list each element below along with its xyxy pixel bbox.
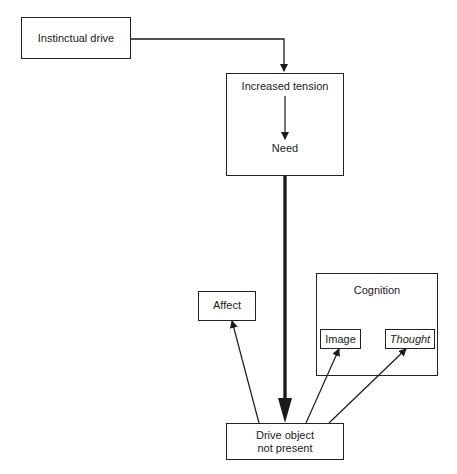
node-instinctual-drive: Instinctual drive bbox=[21, 17, 131, 59]
need-label: Need bbox=[227, 142, 343, 154]
instinctual-drive-label: Instinctual drive bbox=[22, 32, 130, 44]
node-cognition: Cognition bbox=[316, 273, 438, 376]
increased-tension-label: Increased tension bbox=[227, 80, 343, 92]
node-image: Image bbox=[320, 329, 361, 349]
drive-object-line2: not present bbox=[227, 442, 343, 454]
node-thought: Thought bbox=[385, 329, 435, 349]
node-drive-object-not-present: Drive object not present bbox=[226, 423, 344, 460]
node-affect: Affect bbox=[198, 291, 256, 321]
node-tension-need: Increased tension Need bbox=[226, 73, 344, 176]
edge-drive-object-to-affect bbox=[232, 321, 259, 423]
thick-arrowhead-icon bbox=[278, 398, 292, 423]
image-label: Image bbox=[321, 333, 360, 345]
drive-object-line1: Drive object bbox=[227, 429, 343, 441]
connector-layer bbox=[0, 0, 457, 474]
cognition-label: Cognition bbox=[317, 284, 437, 296]
affect-label: Affect bbox=[199, 299, 255, 311]
thought-label: Thought bbox=[386, 333, 434, 345]
edge-drive-to-tension bbox=[130, 39, 284, 71]
